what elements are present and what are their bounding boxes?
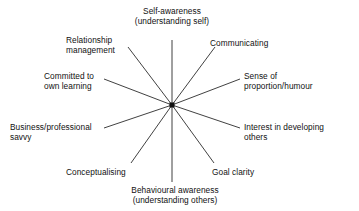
spoke-goal-clarity	[172, 105, 214, 163]
label-sense-of-proportion-humour: Sense of proportion/humour	[244, 71, 348, 91]
label-self-awareness-line1: Self-awareness	[106, 6, 238, 16]
label-communicating-line1: Communicating	[210, 38, 296, 48]
label-sense-of-proportion-humour-line1: Sense of	[244, 71, 348, 81]
label-committed-to-own-learning: Committed to own learning	[44, 71, 130, 91]
label-goal-clarity-line1: Goal clarity	[212, 167, 274, 177]
hub-center-marker	[170, 103, 175, 108]
label-conceptualising-line1: Conceptualising	[66, 167, 150, 177]
label-sense-of-proportion-humour-line2: proportion/humour	[244, 81, 348, 91]
spoke-sense-of-proportion-humour	[172, 79, 240, 105]
label-relationship-management: Relationship management	[66, 35, 142, 55]
label-behavioural-awareness: Behavioural awareness (understanding oth…	[100, 185, 250, 205]
spoke-interest-in-developing-others	[172, 105, 240, 128]
spoke-lines	[104, 40, 240, 182]
label-behavioural-awareness-line1: Behavioural awareness	[100, 185, 250, 195]
label-business-professional-savvy-line1: Business/professional	[10, 122, 120, 132]
spokes-canvas	[0, 0, 359, 211]
label-committed-to-own-learning-line1: Committed to	[44, 71, 130, 81]
spoke-conceptualising	[131, 105, 172, 163]
label-conceptualising: Conceptualising	[66, 167, 150, 177]
label-business-professional-savvy: Business/professional savvy	[10, 122, 120, 142]
spoke-diagram: Self-awareness (understanding self) Rela…	[0, 0, 359, 211]
label-interest-in-developing-others-line2: others	[244, 132, 354, 142]
label-relationship-management-line1: Relationship	[66, 35, 142, 45]
label-interest-in-developing-others: Interest in developing others	[244, 122, 354, 142]
label-self-awareness: Self-awareness (understanding self)	[106, 6, 238, 26]
label-interest-in-developing-others-line1: Interest in developing	[244, 122, 354, 132]
label-business-professional-savvy-line2: savvy	[10, 132, 120, 142]
label-communicating: Communicating	[210, 38, 296, 48]
label-goal-clarity: Goal clarity	[212, 167, 274, 177]
label-behavioural-awareness-line2: (understanding others)	[100, 195, 250, 205]
label-relationship-management-line2: management	[66, 45, 142, 55]
label-self-awareness-line2: (understanding self)	[106, 16, 238, 26]
label-committed-to-own-learning-line2: own learning	[44, 81, 130, 91]
